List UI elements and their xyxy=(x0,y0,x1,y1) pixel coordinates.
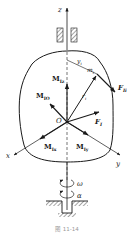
r-i-vector xyxy=(67,76,96,122)
r-i-label: ri xyxy=(82,92,87,101)
F-I-label: FI xyxy=(94,117,103,127)
M-Iy-vector xyxy=(67,122,88,135)
M-Ix-label: MIx xyxy=(44,142,57,152)
top-bearing-left xyxy=(57,28,63,42)
top-bearing-right xyxy=(71,28,77,42)
y-axis-label: y xyxy=(115,160,121,168)
rigid-body-outline xyxy=(19,51,113,162)
rigid-body-inertia-diagram: z yi mi FIi ri MIz MIO FI O x MIx y MIy … xyxy=(0,0,134,235)
figure-caption: 图 11-14 xyxy=(55,225,79,233)
yi-label: yi xyxy=(76,57,82,66)
M-Iz-label: MIz xyxy=(52,74,65,84)
z-axis-label: z xyxy=(57,6,62,14)
alpha-label: α xyxy=(77,192,82,200)
M-Ix-vector xyxy=(40,122,67,139)
M-IO-label: MIO xyxy=(36,91,50,101)
mi-label: mi xyxy=(87,66,95,75)
origin-label: O xyxy=(56,117,62,125)
F-Ii-label: FIi xyxy=(117,83,127,93)
omega-label: ω xyxy=(77,180,83,188)
M-Iy-label: MIy xyxy=(76,142,89,152)
x-axis-label: x xyxy=(6,152,10,160)
F-Ii-vector xyxy=(97,74,115,92)
